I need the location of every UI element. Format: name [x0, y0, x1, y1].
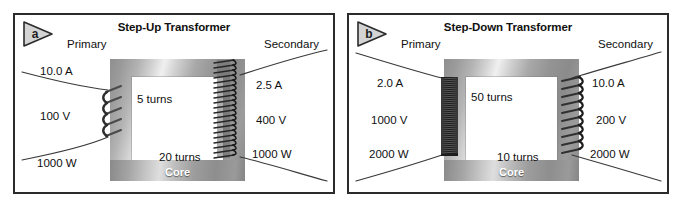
core-label: Core	[110, 166, 245, 178]
core-window	[466, 77, 557, 160]
panel-step-up: a Step-Up Transformer Primary Secondary …	[13, 13, 335, 194]
secondary-voltage-label: 400 V	[256, 114, 286, 126]
secondary-heading: Secondary	[264, 38, 319, 50]
secondary-current-label: 10.0 A	[592, 77, 625, 89]
primary-voltage-label: 1000 V	[371, 114, 407, 126]
primary-power-label: 2000 W	[369, 148, 409, 160]
primary-voltage-label: 100 V	[40, 110, 70, 122]
secondary-current-label: 2.5 A	[256, 79, 282, 91]
primary-turns-label: 50 turns	[471, 91, 513, 103]
panel-title: Step-Up Transformer	[15, 21, 333, 33]
primary-heading: Primary	[67, 38, 107, 50]
transformer-figure: a Step-Up Transformer Primary Secondary …	[0, 0, 682, 207]
panel-title: Step-Down Transformer	[349, 21, 667, 33]
secondary-voltage-label: 200 V	[596, 114, 626, 126]
secondary-power-label: 2000 W	[590, 148, 630, 160]
secondary-power-label: 1000 W	[252, 148, 292, 160]
primary-current-label: 10.0 A	[40, 65, 73, 77]
secondary-turns-label: 20 turns	[159, 151, 201, 163]
secondary-turns-label: 10 turns	[497, 151, 539, 163]
primary-current-label: 2.0 A	[377, 77, 403, 89]
core-label: Core	[444, 166, 579, 178]
primary-turns-label: 5 turns	[137, 93, 172, 105]
secondary-heading: Secondary	[598, 38, 653, 50]
primary-heading: Primary	[401, 38, 441, 50]
core-window	[132, 77, 223, 160]
panel-step-down: b Step-Down Transformer Primary Secondar…	[347, 13, 669, 194]
primary-power-label: 1000 W	[37, 157, 77, 169]
